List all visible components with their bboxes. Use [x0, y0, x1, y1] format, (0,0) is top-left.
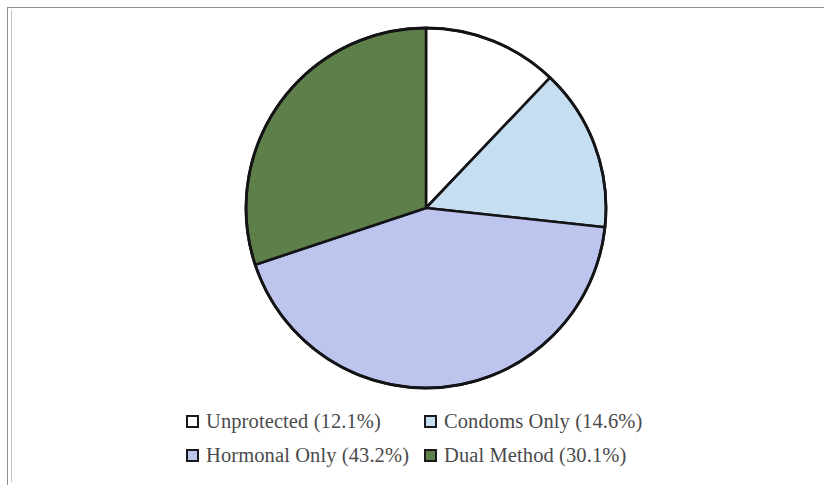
figure-frame-left-inner-rule [11, 10, 12, 482]
legend-label-dual-method: Dual Method (30.1%) [444, 445, 626, 466]
chart-legend: Unprotected (12.1%) Condoms Only (14.6%)… [186, 404, 656, 472]
pie-chart-svg [243, 25, 609, 391]
pie-slice-group [246, 28, 606, 388]
legend-swatch-unprotected [186, 415, 199, 428]
legend-row: Unprotected (12.1%) Condoms Only (14.6%) [186, 404, 656, 438]
legend-label-hormonal-only: Hormonal Only (43.2%) [206, 445, 409, 466]
legend-label-condoms-only: Condoms Only (14.6%) [444, 411, 642, 432]
pie-chart-figure: Unprotected (12.1%) Condoms Only (14.6%)… [0, 0, 831, 488]
figure-frame-top-rule [7, 7, 824, 8]
legend-swatch-condoms-only [424, 415, 437, 428]
legend-swatch-hormonal-only [186, 449, 199, 462]
legend-item-unprotected: Unprotected (12.1%) [186, 411, 424, 432]
legend-item-condoms-only: Condoms Only (14.6%) [424, 411, 656, 432]
figure-frame-left-rule [7, 7, 8, 485]
legend-item-hormonal-only: Hormonal Only (43.2%) [186, 445, 424, 466]
pie-chart-plot-area [243, 25, 609, 391]
legend-swatch-dual-method [424, 449, 437, 462]
legend-row: Hormonal Only (43.2%) Dual Method (30.1%… [186, 438, 656, 472]
legend-item-dual-method: Dual Method (30.1%) [424, 445, 656, 466]
legend-label-unprotected: Unprotected (12.1%) [206, 411, 381, 432]
